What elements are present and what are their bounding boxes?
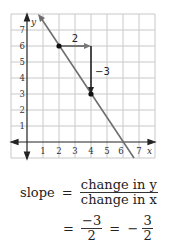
slope-computation: = −3 2 = − 3 2 [60,214,153,243]
svg-text:4: 4 [88,146,93,156]
svg-text:7: 7 [20,25,25,35]
grid [11,14,155,158]
svg-text:2: 2 [56,146,61,156]
computed-fraction: −3 2 [81,214,102,243]
negative-sign: − [127,221,138,236]
equals-sign: = [62,185,73,200]
computed-denominator: 2 [81,229,102,243]
rise-label: −3 [95,66,110,77]
result-fraction: 3 2 [142,214,152,243]
svg-text:1: 1 [40,146,45,156]
svg-text:5: 5 [104,146,109,156]
run-label: 2 [72,33,78,44]
svg-text:1: 1 [20,121,25,131]
coordinate-graph: 765 4321 123 4567 y x 2 −3 [0,0,169,170]
point-2-6 [56,43,61,48]
computed-numerator: −3 [81,214,102,229]
rise-arrow [88,46,94,94]
slope-label: slope [20,185,55,200]
svg-text:3: 3 [20,89,25,99]
svg-text:7: 7 [136,146,141,156]
svg-text:6: 6 [118,146,123,156]
y-axis-label: y [30,17,37,27]
point-4-3 [88,91,93,96]
svg-text:4: 4 [20,73,25,83]
svg-text:2: 2 [20,105,25,115]
slope-definition-fraction: change in y change in x [80,178,158,207]
line [38,14,134,158]
equals-sign-2: = [63,221,74,236]
equals-sign-3: = [109,221,120,236]
result-denominator: 2 [142,229,152,243]
svg-text:6: 6 [20,41,25,51]
result-numerator: 3 [142,214,152,229]
svg-text:3: 3 [72,146,77,156]
axes [11,14,155,159]
numerator-words: change in y [80,178,158,193]
svg-text:5: 5 [20,57,25,67]
y-tick-labels: 765 4321 [20,25,25,131]
slope-formula: slope = change in y change in x [20,178,158,207]
denominator-words: change in x [80,193,158,207]
x-axis-label: x [147,146,152,156]
